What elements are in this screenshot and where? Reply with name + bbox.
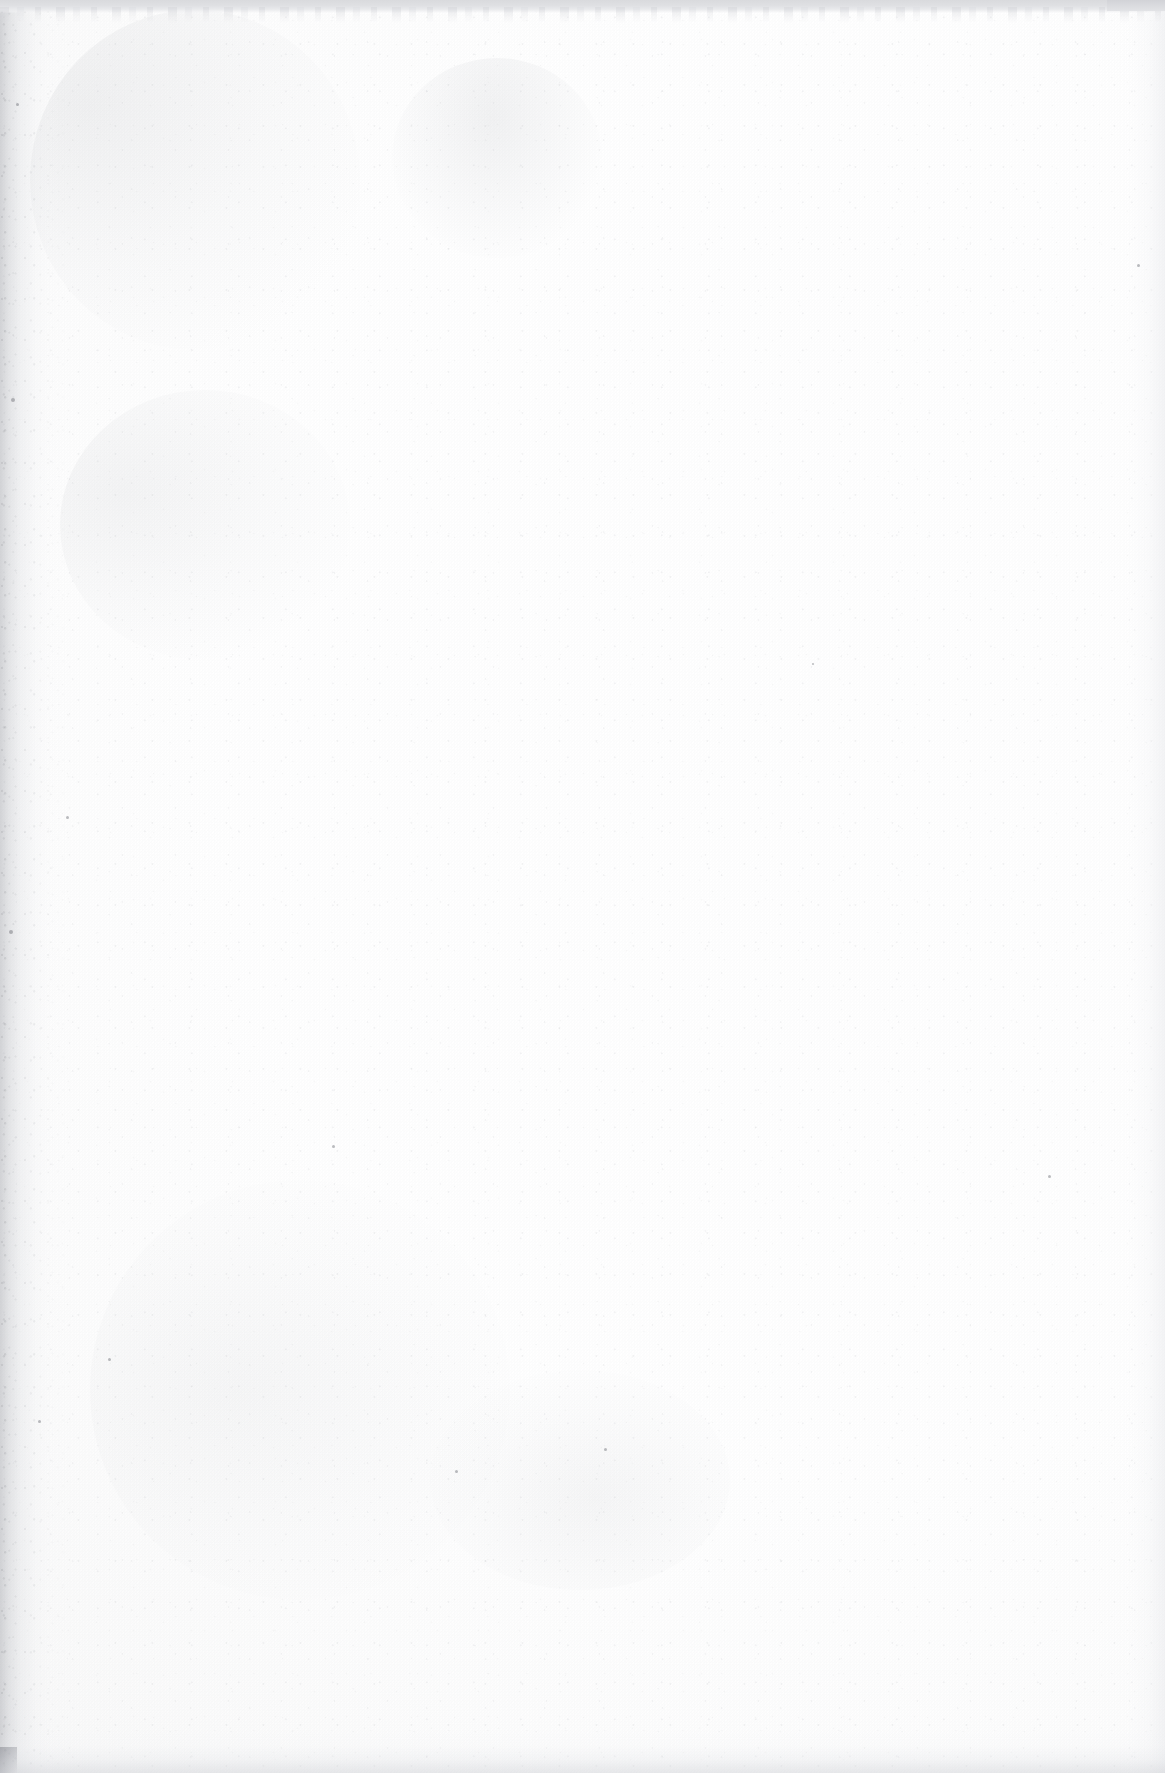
page-text-content	[120, 150, 1040, 1600]
scanned-page	[0, 0, 1165, 1773]
